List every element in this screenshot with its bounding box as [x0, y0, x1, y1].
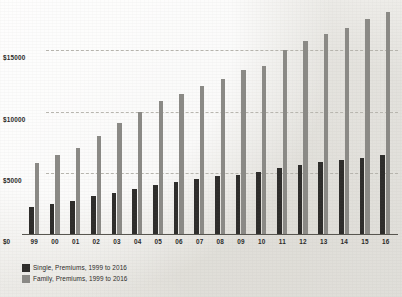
x-axis-label-01: 01	[72, 238, 80, 245]
x-axis-label-13: 13	[320, 238, 328, 245]
bars-plot-area	[0, 0, 402, 234]
x-axis-label-16: 16	[382, 238, 390, 245]
bar-family-02	[97, 136, 101, 234]
bar-family-05	[159, 101, 163, 234]
chart-legend: Single, Premiums, 1999 to 2016 Family, P…	[22, 262, 128, 284]
bar-family-14	[345, 28, 349, 234]
x-axis-label-00: 00	[51, 238, 59, 245]
x-axis-label-12: 12	[299, 238, 307, 245]
bar-single-07	[194, 179, 198, 234]
bar-single-12	[298, 165, 302, 234]
bar-single-01	[70, 201, 74, 234]
x-axis-label-02: 02	[93, 238, 101, 245]
x-axis-label-05: 05	[155, 238, 163, 245]
bar-family-03	[117, 123, 121, 234]
bar-single-06	[174, 182, 178, 234]
bar-single-02	[91, 196, 95, 234]
x-axis-label-03: 03	[113, 238, 121, 245]
x-axis-line	[22, 234, 398, 235]
bar-single-04	[132, 189, 136, 234]
bar-single-16	[380, 155, 384, 234]
bar-family-13	[324, 34, 328, 234]
y-axis-zero-label: $0	[3, 238, 10, 245]
legend-swatch-family-icon	[22, 275, 30, 283]
x-axis-label-14: 14	[341, 238, 349, 245]
bar-single-99	[29, 207, 33, 234]
x-axis-label-04: 04	[134, 238, 142, 245]
bar-family-09	[241, 70, 245, 234]
bar-family-08	[221, 79, 225, 234]
bar-single-03	[112, 193, 116, 234]
bar-family-01	[76, 148, 80, 234]
bar-family-00	[55, 155, 59, 234]
bar-single-08	[215, 176, 219, 234]
bar-single-09	[236, 175, 240, 234]
bar-family-99	[35, 163, 39, 234]
bar-single-05	[153, 185, 157, 234]
x-axis-label-99: 99	[31, 238, 39, 245]
x-axis-label-09: 09	[237, 238, 245, 245]
x-axis-label-07: 07	[196, 238, 204, 245]
legend-label-family: Family, Premiums, 1999 to 2016	[33, 275, 128, 282]
x-axis-label-15: 15	[361, 238, 369, 245]
bar-family-07	[200, 86, 204, 234]
legend-swatch-single-icon	[22, 264, 30, 272]
bar-single-10	[256, 172, 260, 234]
bar-family-15	[365, 19, 369, 234]
bar-single-14	[339, 160, 343, 234]
bar-single-00	[50, 204, 54, 234]
bar-family-16	[386, 12, 390, 234]
x-axis-label-11: 11	[279, 238, 286, 245]
bar-family-10	[262, 66, 266, 234]
legend-item-single: Single, Premiums, 1999 to 2016	[22, 262, 128, 273]
bar-single-13	[318, 162, 322, 234]
bar-family-11	[283, 50, 287, 234]
bar-single-11	[277, 168, 281, 234]
bar-family-06	[179, 94, 183, 234]
x-axis-label-08: 08	[217, 238, 225, 245]
bar-family-04	[138, 112, 142, 234]
bar-family-12	[303, 41, 307, 234]
bar-single-15	[360, 158, 364, 234]
legend-label-single: Single, Premiums, 1999 to 2016	[33, 264, 127, 271]
x-axis-label-06: 06	[175, 238, 183, 245]
bar-chart: $5000$10000$15000 $0 9900010203040506070…	[0, 0, 402, 297]
legend-item-family: Family, Premiums, 1999 to 2016	[22, 273, 128, 284]
x-axis-label-10: 10	[258, 238, 266, 245]
